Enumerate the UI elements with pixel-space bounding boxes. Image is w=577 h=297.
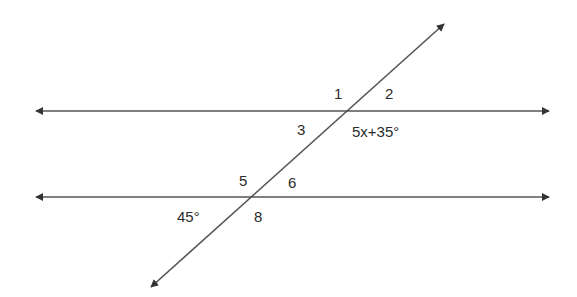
angle-6-label: 6 [288,175,296,190]
diagram-canvas [0,0,577,297]
angle-3-label: 3 [297,122,305,137]
angle-4-expression-label: 5x+35° [352,124,399,139]
angle-8-label: 8 [254,209,262,224]
angle-1-label: 1 [334,86,342,101]
transversal-line [151,24,444,287]
angle-7-value-label: 45° [177,209,200,224]
angle-2-label: 2 [385,86,393,101]
angle-5-label: 5 [239,173,247,188]
